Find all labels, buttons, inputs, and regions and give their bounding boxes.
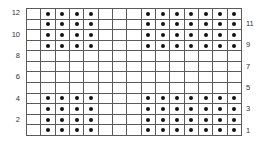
stitch-dot xyxy=(75,118,79,122)
stitch-dot xyxy=(146,33,150,37)
grid-cell xyxy=(99,51,113,62)
stitch-dot xyxy=(75,44,79,48)
grid-cell xyxy=(228,41,242,52)
stitch-dot xyxy=(60,22,64,26)
stitch-dot xyxy=(218,22,222,26)
grid-cell xyxy=(185,94,199,105)
grid-cell xyxy=(84,62,98,73)
grid-cell xyxy=(70,9,84,20)
grid-cell xyxy=(56,115,70,126)
grid-cell xyxy=(113,83,127,94)
grid-cell xyxy=(41,125,55,136)
grid-cell xyxy=(99,9,113,20)
stitch-dot xyxy=(204,22,208,26)
grid-cell xyxy=(156,41,170,52)
grid-cell xyxy=(56,51,70,62)
grid-cell xyxy=(56,125,70,136)
grid-cell xyxy=(228,104,242,115)
grid-cell xyxy=(170,125,184,136)
grid-cell xyxy=(156,115,170,126)
grid-cell xyxy=(99,115,113,126)
grid-cell xyxy=(27,104,41,115)
stitch-dot xyxy=(60,128,64,132)
stitch-dot xyxy=(89,107,93,111)
row-label: 6 xyxy=(4,73,20,81)
grid-cell xyxy=(99,83,113,94)
grid-cell xyxy=(228,72,242,83)
grid-cell xyxy=(41,62,55,73)
grid-cell xyxy=(213,30,227,41)
grid-cell xyxy=(213,83,227,94)
grid-cell xyxy=(142,115,156,126)
grid-cell xyxy=(127,104,141,115)
grid-cell xyxy=(27,51,41,62)
grid-cell xyxy=(127,51,141,62)
grid-cell xyxy=(84,51,98,62)
grid-cell xyxy=(70,30,84,41)
grid-cell xyxy=(199,9,213,20)
stitch-dot xyxy=(218,44,222,48)
grid-cell xyxy=(113,115,127,126)
grid-cell xyxy=(41,115,55,126)
grid-cell xyxy=(127,72,141,83)
stitch-dot xyxy=(46,44,50,48)
grid-cell xyxy=(213,125,227,136)
grid-cell xyxy=(127,9,141,20)
grid-cell xyxy=(56,41,70,52)
grid-cell xyxy=(41,94,55,105)
stitch-dot xyxy=(146,44,150,48)
grid-cell xyxy=(113,9,127,20)
grid-cell xyxy=(41,20,55,31)
grid-cell xyxy=(142,41,156,52)
stitch-dot xyxy=(189,12,193,16)
grid-cell xyxy=(199,51,213,62)
stitch-dot xyxy=(60,44,64,48)
grid-cell xyxy=(56,72,70,83)
grid-cell xyxy=(213,41,227,52)
grid-cell xyxy=(84,104,98,115)
stitch-dot xyxy=(161,22,165,26)
stitch-dot xyxy=(204,118,208,122)
grid-cell xyxy=(156,94,170,105)
stitch-dot xyxy=(232,107,236,111)
stitch-dot xyxy=(89,96,93,100)
grid-cell xyxy=(170,41,184,52)
grid-cell xyxy=(56,62,70,73)
grid-cell xyxy=(113,41,127,52)
stitch-dot xyxy=(161,128,165,132)
stitch-dot xyxy=(175,44,179,48)
grid-cell xyxy=(70,125,84,136)
grid-cell xyxy=(56,94,70,105)
row-label: 4 xyxy=(4,95,20,103)
stitch-dot xyxy=(189,22,193,26)
stitch-dot xyxy=(146,22,150,26)
grid-cell xyxy=(170,94,184,105)
stitch-dot xyxy=(146,118,150,122)
grid-cell xyxy=(228,9,242,20)
grid-cell xyxy=(84,20,98,31)
stitch-dot xyxy=(232,22,236,26)
grid-cell xyxy=(127,94,141,105)
grid-cell xyxy=(142,62,156,73)
stitch-dot xyxy=(232,33,236,37)
stitch-dot xyxy=(232,96,236,100)
grid-cell xyxy=(142,9,156,20)
grid-cell xyxy=(213,104,227,115)
row-label: 2 xyxy=(4,116,20,124)
row-label: 1 xyxy=(246,127,250,135)
grid-cell xyxy=(27,83,41,94)
grid-cell xyxy=(41,30,55,41)
stitch-dot xyxy=(89,22,93,26)
grid-cell xyxy=(41,83,55,94)
grid-cell xyxy=(113,51,127,62)
grid-cell xyxy=(199,83,213,94)
grid-cell xyxy=(170,9,184,20)
grid-cell xyxy=(199,115,213,126)
grid-cell xyxy=(156,51,170,62)
grid-cell xyxy=(156,20,170,31)
grid-cell xyxy=(56,20,70,31)
grid-cell xyxy=(127,41,141,52)
grid-cell xyxy=(228,30,242,41)
stitch-dot xyxy=(175,22,179,26)
grid-cell xyxy=(228,20,242,31)
